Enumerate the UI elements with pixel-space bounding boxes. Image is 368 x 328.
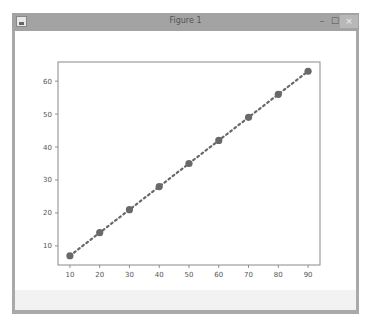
x-tick-label: 50	[185, 271, 194, 279]
title-bar[interactable]: Figure 1 – ☐ ×	[12, 13, 359, 31]
toolbar-area	[15, 290, 356, 310]
y-tick-label: 60	[43, 78, 52, 86]
x-tick-label: 60	[214, 271, 223, 279]
x-tick-label: 90	[304, 271, 313, 279]
x-tick-label: 20	[95, 271, 104, 279]
x-tick-label: 80	[274, 271, 283, 279]
y-tick-label: 10	[43, 242, 52, 250]
x-tick-label: 40	[155, 271, 164, 279]
data-point	[66, 252, 73, 259]
figure-canvas: 102030405060708090102030405060	[15, 31, 356, 310]
data-point	[156, 183, 163, 190]
y-tick-label: 40	[43, 144, 52, 152]
data-point	[245, 114, 252, 121]
figure-window: Figure 1 – ☐ × 1020304050607080901020304…	[12, 13, 359, 314]
plot-area: 102030405060708090102030405060	[15, 31, 356, 310]
y-tick-label: 20	[43, 209, 52, 217]
y-tick-label: 50	[43, 111, 52, 119]
x-tick-label: 10	[65, 271, 74, 279]
data-point	[185, 160, 192, 167]
minimize-button[interactable]: –	[315, 15, 329, 28]
data-point	[304, 68, 311, 75]
data-point	[126, 206, 133, 213]
y-tick-label: 30	[43, 176, 52, 184]
close-button[interactable]: ×	[340, 15, 358, 28]
data-point	[275, 91, 282, 98]
window-title: Figure 1	[12, 16, 359, 25]
x-tick-label: 30	[125, 271, 134, 279]
data-point	[215, 137, 222, 144]
x-tick-label: 70	[244, 271, 253, 279]
data-point	[96, 229, 103, 236]
